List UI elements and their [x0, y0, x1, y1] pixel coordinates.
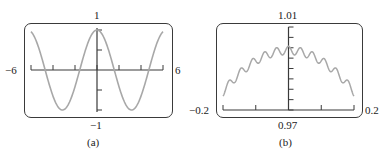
x-min-label-b: −0.2: [189, 105, 209, 116]
caption-b: (b): [279, 137, 292, 148]
y-max-label-b: 1.01: [278, 10, 297, 21]
panel-b: 1.01 0.97 −0.2 0.2 (b): [0, 0, 387, 152]
plot-b-graph: [0, 0, 387, 152]
y-min-label-b: 0.97: [278, 120, 297, 131]
x-max-label-b: 0.2: [365, 105, 379, 116]
